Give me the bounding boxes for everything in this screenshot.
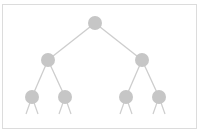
tree-edge	[48, 23, 95, 60]
tree-node-l	[41, 53, 55, 67]
tree-node-lr	[58, 90, 72, 104]
tree-node-rl	[119, 90, 133, 104]
tree-edge	[95, 23, 142, 60]
tree-node-rr	[152, 90, 166, 104]
binary-tree-diagram	[0, 0, 201, 132]
tree-node-r	[135, 53, 149, 67]
tree-node-ll	[25, 90, 39, 104]
tree-node-root	[88, 16, 102, 30]
